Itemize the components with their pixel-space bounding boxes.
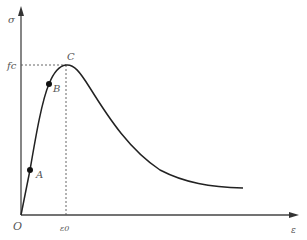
- y-axis-label: σ: [8, 14, 16, 25]
- fc-tick-label: fc: [6, 60, 17, 71]
- y-axis-arrow-icon: [18, 6, 24, 16]
- x-axis-label: ε: [291, 225, 296, 235]
- origin-label: O: [13, 220, 22, 233]
- point-a-label: A: [35, 169, 43, 180]
- point-a-marker: [27, 167, 33, 173]
- point-c-label: C: [67, 51, 75, 62]
- stress-strain-diagram: σ ε O fc ε0 A B C: [0, 0, 307, 240]
- eps0-tick-label: ε0: [60, 224, 69, 233]
- point-b-label: B: [52, 83, 60, 94]
- point-b-marker: [46, 81, 52, 87]
- x-axis-arrow-icon: [289, 212, 299, 218]
